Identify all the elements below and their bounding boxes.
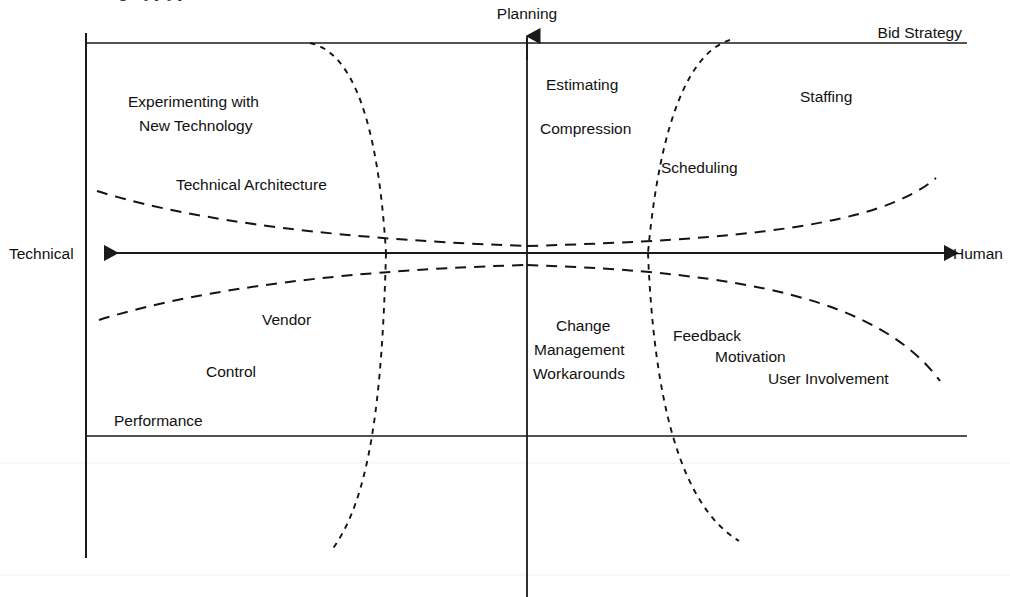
label-control: Control bbox=[206, 363, 256, 380]
label-motivation: Motivation bbox=[715, 348, 786, 365]
curve-upper-right-branch bbox=[527, 178, 936, 246]
curve-upper-left-branch bbox=[97, 191, 527, 246]
curve-right-vertical-upper bbox=[648, 40, 730, 253]
axis-label-technical: Technical bbox=[9, 245, 74, 262]
label-new-technology: New Technology bbox=[139, 117, 253, 134]
clipped-title-text: g s j y j y bbox=[120, 0, 189, 1]
clipped-figure-title: g s j y j y bbox=[120, 0, 189, 1]
label-technical-architecture: Technical Architecture bbox=[176, 176, 327, 193]
curve-right-vertical-lower bbox=[648, 253, 739, 541]
scan-artifacts bbox=[0, 463, 1010, 575]
curve-left-vertical-lower bbox=[331, 253, 386, 551]
quadrant-lower-left-labels: Vendor Control Performance bbox=[114, 311, 311, 429]
axis-label-planning: Planning bbox=[497, 5, 557, 22]
quadrant-upper-right-labels: Estimating Compression Scheduling Staffi… bbox=[540, 76, 852, 176]
label-management: Management bbox=[534, 341, 625, 358]
label-change: Change bbox=[556, 317, 610, 334]
label-workarounds: Workarounds bbox=[533, 365, 625, 382]
label-bid-strategy: Bid Strategy bbox=[878, 24, 963, 41]
label-staffing: Staffing bbox=[800, 88, 852, 105]
curve-left-vertical-upper bbox=[310, 43, 386, 253]
label-estimating: Estimating bbox=[546, 76, 618, 93]
quadrant-lower-right-labels: Change Management Workarounds Feedback M… bbox=[533, 317, 889, 387]
frame-rules bbox=[85, 33, 967, 558]
quadrant-diagram: g s j y j y bbox=[0, 0, 1010, 597]
label-performance: Performance bbox=[114, 412, 203, 429]
label-user-involvement: User Involvement bbox=[768, 370, 889, 387]
quadrant-upper-left-labels: Experimenting with New Technology Techni… bbox=[128, 93, 327, 193]
label-compression: Compression bbox=[540, 120, 631, 137]
curve-lower-left-branch bbox=[99, 265, 527, 320]
label-scheduling: Scheduling bbox=[661, 159, 738, 176]
label-vendor: Vendor bbox=[262, 311, 311, 328]
axis-label-human: Human bbox=[953, 245, 1003, 262]
label-feedback: Feedback bbox=[673, 327, 741, 344]
figure-root: g s j y j y bbox=[0, 0, 1010, 597]
label-experimenting-with: Experimenting with bbox=[128, 93, 259, 110]
